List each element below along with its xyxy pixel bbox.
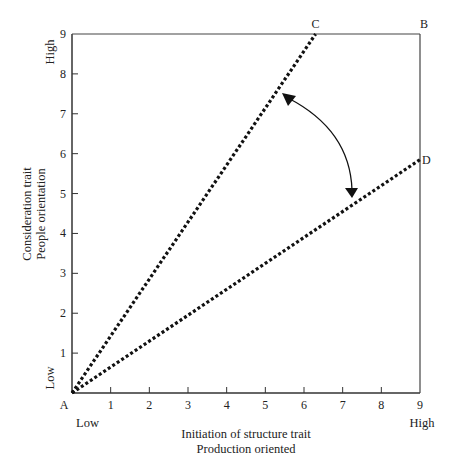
y-low-label: Low	[43, 367, 57, 390]
y-tick-label: 3	[60, 266, 66, 280]
y-high-label: High	[43, 39, 57, 65]
y-tick-label: 1	[60, 346, 66, 360]
x-tick-label: 3	[185, 398, 191, 412]
series-line-ad	[72, 160, 420, 393]
x-low-label: Low	[76, 416, 99, 430]
x-tick-label: 8	[378, 398, 384, 412]
arrowhead-top-icon	[282, 93, 296, 106]
y-tick-label: 7	[60, 107, 66, 121]
point-label-c: C	[312, 17, 320, 31]
x-axis-title: Initiation of structure trait	[181, 427, 311, 441]
curved-double-arrow	[288, 98, 352, 190]
y-axis-subtitle: People orientation	[34, 168, 48, 260]
x-tick-label: 1	[108, 398, 114, 412]
series-line-ac	[72, 34, 316, 393]
x-tick-label: 2	[146, 398, 152, 412]
point-label-a: A	[60, 398, 69, 412]
x-tick-label: 6	[301, 398, 307, 412]
y-tick-label: 4	[60, 226, 66, 240]
y-tick-label: 8	[60, 67, 66, 81]
leadership-chart: 123456789123456789LowHighLowHighInitiati…	[0, 0, 450, 472]
x-tick-label: 7	[340, 398, 346, 412]
x-tick-label: 4	[224, 398, 230, 412]
point-label-b: B	[420, 17, 428, 31]
arrowhead-bottom-icon	[345, 188, 358, 198]
y-axis-title: Consideration trait	[20, 167, 34, 261]
x-tick-label: 9	[417, 398, 423, 412]
y-tick-label: 5	[60, 187, 66, 201]
y-tick-label: 6	[60, 147, 66, 161]
y-tick-label: 2	[60, 306, 66, 320]
x-axis-subtitle: Production oriented	[197, 442, 297, 456]
x-tick-label: 5	[262, 398, 268, 412]
x-high-label: High	[410, 416, 436, 430]
y-tick-label: 9	[60, 27, 66, 41]
point-label-d: D	[422, 153, 431, 167]
